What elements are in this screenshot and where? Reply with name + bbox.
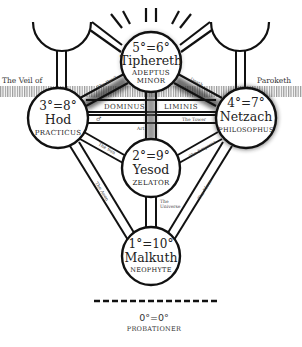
bar-label-dominus: Dominus (104, 103, 145, 111)
probationer-title: Probationer (127, 325, 182, 333)
grade-title: Zelator (132, 179, 170, 187)
grade-title: Neophyte (130, 266, 172, 274)
grade-label: 3°=8° (39, 99, 76, 113)
path-label-the-tower: The Tower (182, 117, 207, 122)
sephirah-malkuth[interactable]: 1°=10° Malkuth Neophyte (122, 227, 180, 285)
grade-label: 2°=9° (132, 149, 169, 163)
probationer-grade: 0°=0° (139, 312, 169, 323)
veil-label-right: Paroketh (257, 76, 291, 85)
path-yesod-tiphereth (146, 92, 156, 140)
path-label-art: Art (136, 126, 144, 131)
grade-title: Philosophus (218, 126, 273, 134)
grade-label: 4°=7° (227, 96, 264, 110)
grade-title-line1: Adeptus (131, 69, 170, 77)
veil-label-left: The Veil of (2, 76, 44, 85)
sephirah-yesod[interactable]: 2°=9° Yesod Zelator (122, 139, 180, 197)
sephirah-tiphereth[interactable]: 5°=6° Tiphereth Adeptus Minor (120, 32, 182, 92)
tree-of-life-diagram: The Devil Death Dominus Liminis ♂ The To… (0, 0, 302, 347)
sephirah-name: Yesod (132, 162, 170, 177)
sephirah-name: Tiphereth (120, 53, 182, 68)
grade-title: Practicus (35, 129, 82, 137)
mars-symbol: ♂ (96, 115, 101, 122)
sephirah-name: Netzach (220, 109, 272, 124)
bar-label-liminis: Liminis (164, 103, 198, 111)
path-label-the-emperor: The Emperor (188, 139, 217, 159)
path-label-the-universe-2: Universe (160, 204, 181, 209)
grade-title-line2: Minor (137, 77, 166, 85)
sephirah-name: Malkuth (125, 250, 178, 265)
sephirah-netzach[interactable]: 4°=7° Netzach Philosophus (216, 88, 276, 148)
path-yesod-malkuth (146, 196, 156, 228)
grade-label: 1°=10° (129, 237, 174, 251)
sephirah-hod[interactable]: 3°=8° Hod Practicus (28, 88, 88, 148)
sephirah-name: Hod (45, 112, 71, 127)
